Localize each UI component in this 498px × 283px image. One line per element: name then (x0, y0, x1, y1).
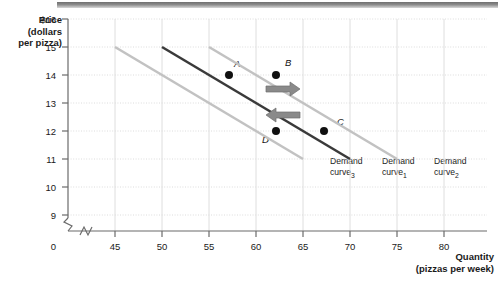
x-tick-marks (115, 231, 444, 237)
data-point-B (272, 71, 280, 79)
plot-svg (0, 0, 498, 283)
data-point-A (225, 71, 233, 79)
y-axis-break-icon (64, 218, 72, 231)
vertical-gridlines (115, 19, 444, 231)
data-point-C (320, 127, 328, 135)
demand-curve-figure: Price (dollars per pizza) Quantity (pizz… (0, 0, 498, 283)
y-tick-marks (62, 19, 68, 215)
data-point-D (272, 127, 280, 135)
x-axis-break-icon (80, 227, 92, 235)
axis-lines (64, 19, 487, 235)
